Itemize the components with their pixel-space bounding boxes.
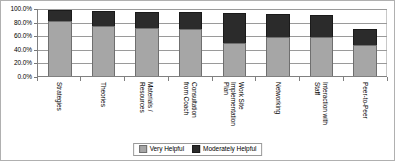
x-axis-category-label: Consultationfrom Coach <box>183 82 198 118</box>
x-label-slot: Networking <box>256 82 300 139</box>
bar-segment-moderately-helpful[interactable] <box>135 12 159 28</box>
y-tick-label: 80.0% <box>14 19 32 26</box>
x-label-slot: Consultationfrom Coach <box>168 82 212 139</box>
bar-segment-very-helpful[interactable] <box>266 37 290 76</box>
x-axis-category-label-line: Theories <box>99 82 106 107</box>
bar-segment-very-helpful[interactable] <box>48 21 72 76</box>
x-axis-category-label-line: Plan <box>223 82 231 126</box>
x-tick-slot <box>212 77 256 81</box>
x-tick-mark <box>387 77 388 81</box>
x-axis-category-label-line: Networking <box>274 82 281 114</box>
x-axis-category-label: Theories <box>99 82 107 107</box>
stacked-bar-chart: 100.0%80.0%60.0%40.0%20.0%0.0% Strategie… <box>0 0 395 161</box>
y-tick-label: 0.0% <box>18 74 32 81</box>
bar-slot <box>169 9 213 76</box>
x-axis-category-label: Materials /Resources <box>139 82 154 113</box>
x-axis-category-label-line: Work Site <box>238 82 245 110</box>
x-axis-category-label: Networking <box>274 82 282 114</box>
bar-stack[interactable] <box>135 9 159 76</box>
bar-slot <box>125 9 169 76</box>
y-tick-label: 20.0% <box>14 60 32 67</box>
x-axis-category-label-line: Implementation <box>230 82 238 126</box>
bar-segment-very-helpful[interactable] <box>179 29 203 76</box>
bar-segment-very-helpful[interactable] <box>353 45 377 76</box>
x-label-slot: Theories <box>81 82 125 139</box>
bar-stack[interactable] <box>266 9 290 76</box>
x-axis-category-label-line: Strategies <box>56 82 63 111</box>
x-tick-slot <box>300 77 344 81</box>
plot-area <box>37 9 387 77</box>
legend-label: Moderately Helpful <box>203 146 256 153</box>
x-axis-labels: StrategiesTheoriesMaterials /ResourcesCo… <box>37 82 387 139</box>
x-label-slot: Strategies <box>37 82 81 139</box>
bar-stack[interactable] <box>223 9 247 76</box>
legend-swatch-icon <box>139 145 147 153</box>
bar-stack[interactable] <box>92 9 116 76</box>
bar-slot <box>82 9 126 76</box>
x-label-slot: Peer-to-Peer <box>343 82 387 139</box>
x-axis-category-label-line: from Coach <box>183 82 191 118</box>
bar-segment-moderately-helpful[interactable] <box>179 12 203 29</box>
x-axis-category-label: Peer-to-Peer <box>361 82 369 119</box>
x-tick-mark <box>124 77 125 81</box>
x-label-slot: Interaction withStaff <box>300 82 344 139</box>
y-tick-label: 40.0% <box>14 47 32 54</box>
bar-slot <box>343 9 387 76</box>
x-tick-mark <box>255 77 256 81</box>
x-tick-slot <box>256 77 300 81</box>
x-tick-slot <box>168 77 212 81</box>
x-axis-category-label-line: Materials / <box>147 82 154 111</box>
x-tick-mark <box>80 77 81 81</box>
bar-slot <box>213 9 257 76</box>
bar-stack[interactable] <box>179 9 203 76</box>
x-tick-slot <box>125 77 169 81</box>
x-axis-category-label-line: Staff <box>314 82 322 125</box>
y-axis: 100.0%80.0%60.0%40.0%20.0%0.0% <box>1 9 37 77</box>
x-tick-slot <box>37 77 81 81</box>
x-axis-category-label-line: Resources <box>139 82 147 113</box>
legend-swatch-icon <box>192 145 200 153</box>
bar-segment-moderately-helpful[interactable] <box>48 10 72 21</box>
legend-entry[interactable]: Moderately Helpful <box>192 145 256 153</box>
bar-stack[interactable] <box>48 9 72 76</box>
x-label-slot: Materials /Resources <box>125 82 169 139</box>
x-axis-ticks <box>37 77 387 81</box>
x-tick-slot <box>343 77 387 81</box>
bars-layer <box>38 9 387 76</box>
bar-slot <box>38 9 82 76</box>
x-tick-slot <box>81 77 125 81</box>
bar-segment-moderately-helpful[interactable] <box>266 14 290 37</box>
bar-segment-very-helpful[interactable] <box>135 28 159 76</box>
bar-segment-moderately-helpful[interactable] <box>92 11 116 27</box>
bar-segment-very-helpful[interactable] <box>92 26 116 76</box>
x-tick-mark <box>212 77 213 81</box>
chart-legend: Very HelpfulModerately Helpful <box>133 143 263 156</box>
x-axis-category-label-line: Consultation <box>191 82 198 118</box>
bar-stack[interactable] <box>310 9 334 76</box>
legend-entry[interactable]: Very Helpful <box>139 145 184 153</box>
legend-label: Very Helpful <box>150 146 184 153</box>
bar-segment-very-helpful[interactable] <box>310 37 334 76</box>
bar-segment-moderately-helpful[interactable] <box>353 29 377 45</box>
x-axis-category-label-line: Peer-to-Peer <box>362 82 369 119</box>
y-tick-label: 100.0% <box>11 6 32 13</box>
x-tick-mark <box>168 77 169 81</box>
x-label-slot: Work SiteImplementationPlan <box>212 82 256 139</box>
y-tick-label: 60.0% <box>14 33 32 40</box>
x-axis-category-label: Work SiteImplementationPlan <box>223 82 246 126</box>
x-tick-mark <box>299 77 300 81</box>
bar-stack[interactable] <box>353 9 377 76</box>
bar-segment-moderately-helpful[interactable] <box>310 15 334 37</box>
x-axis-category-label-line: Interaction with <box>322 82 329 125</box>
x-axis-category-label: Interaction withStaff <box>314 82 329 125</box>
bar-slot <box>256 9 300 76</box>
x-tick-mark <box>343 77 344 81</box>
x-axis-category-label: Strategies <box>55 82 63 111</box>
x-tick-mark <box>37 77 38 81</box>
bar-segment-very-helpful[interactable] <box>223 43 247 76</box>
bar-segment-moderately-helpful[interactable] <box>223 13 247 42</box>
bar-slot <box>300 9 344 76</box>
